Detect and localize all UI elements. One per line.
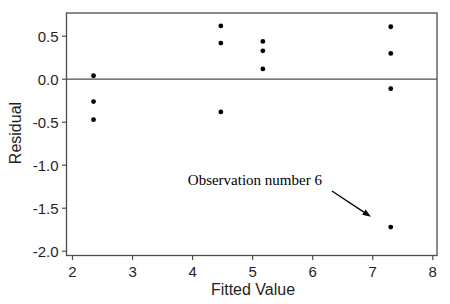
residual-plot-figure: 23456780.50.0-0.5-1.0-1.5-2.0 Fitted Val… <box>0 0 450 304</box>
data-point <box>260 66 265 71</box>
x-axis-tick-label: 8 <box>429 263 437 280</box>
data-point <box>218 23 223 28</box>
y-axis-tick-label: -1.5 <box>33 200 59 217</box>
data-point <box>91 73 96 78</box>
data-point <box>388 225 393 230</box>
y-axis-tick-label: 0.5 <box>38 28 59 45</box>
data-point <box>218 109 223 114</box>
plot-frame <box>67 13 438 256</box>
y-axis-title: Residual <box>8 102 24 164</box>
data-point <box>388 51 393 56</box>
y-axis-tick-label: -0.5 <box>33 114 59 131</box>
y-axis-tick-label: -1.0 <box>33 157 59 174</box>
x-axis-tick-label: 7 <box>369 263 377 280</box>
y-axis-tick-label: 0.0 <box>38 71 59 88</box>
x-axis-tick-label: 2 <box>68 263 76 280</box>
data-point <box>260 48 265 53</box>
data-point <box>218 41 223 46</box>
data-point <box>388 24 393 29</box>
data-point <box>91 99 96 104</box>
annotation-text: Observation number 6 <box>188 173 322 188</box>
y-axis-tick-label: -2.0 <box>33 243 59 260</box>
x-axis-tick-label: 4 <box>188 263 196 280</box>
data-point <box>260 39 265 44</box>
x-axis-tick-label: 5 <box>248 263 256 280</box>
annotation-arrow-line <box>332 191 364 212</box>
annotation-arrowhead <box>362 209 371 216</box>
residual-scatter-chart: 23456780.50.0-0.5-1.0-1.5-2.0 <box>0 0 450 304</box>
x-axis-tick-label: 6 <box>309 263 317 280</box>
x-axis-tick-label: 3 <box>128 263 136 280</box>
data-point <box>388 86 393 91</box>
x-axis-title: Fitted Value <box>211 282 295 298</box>
data-point <box>91 117 96 122</box>
